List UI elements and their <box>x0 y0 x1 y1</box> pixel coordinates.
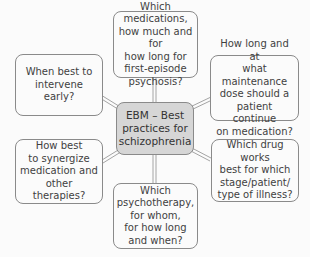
node-line: intervene early? <box>20 79 98 104</box>
node-line: Which <box>117 185 195 198</box>
node-line: When best to <box>20 66 98 79</box>
center-line: EBM – Best <box>119 109 192 122</box>
node-line: other therapies? <box>20 178 98 203</box>
node-line: best for which <box>216 164 294 177</box>
node-line: patient continue <box>215 101 294 126</box>
node-line: for whom, <box>117 210 195 223</box>
node-line: how much and for <box>118 26 193 51</box>
node-lower-left-synergize-therapies: How best to synergize medication and oth… <box>15 139 103 204</box>
node-bottom-psychotherapy: Which psychotherapy, for whom, for how l… <box>113 183 198 249</box>
node-line: psychosis? <box>118 76 193 89</box>
node-upper-left-early-intervention: When best to intervene early? <box>15 54 103 116</box>
node-line: what maintenance <box>215 63 294 88</box>
node-line: psychotherapy, <box>117 197 195 210</box>
node-line: How long and at <box>215 38 294 63</box>
node-lower-right-drug-selection: Which drug works best for which stage/pa… <box>211 139 299 202</box>
node-line: to synergize <box>20 153 98 166</box>
node-upper-right-maintenance-dose: How long and at what maintenance dose sh… <box>210 55 299 121</box>
center-line: practices for <box>119 122 192 135</box>
node-line: How best <box>20 140 98 153</box>
node-line: medication and <box>20 165 98 178</box>
node-line: and when? <box>117 235 195 248</box>
node-line: Which drug works <box>216 139 294 164</box>
node-line: dose should a <box>215 88 294 101</box>
node-line: type of illness? <box>216 189 294 202</box>
node-center-ebm-schizophrenia: EBM – Best practices for schizophrenia <box>116 102 194 155</box>
node-line: Which medications, <box>118 1 193 26</box>
node-line: stage/patient/ <box>216 177 294 190</box>
node-line: first-episode <box>118 63 193 76</box>
mind-map-canvas: Which medications, how much and for how … <box>0 0 310 257</box>
center-line: schizophrenia <box>119 135 192 148</box>
node-top-first-episode-medications: Which medications, how much and for how … <box>113 11 198 78</box>
node-line: on medication? <box>215 126 294 139</box>
node-line: for how long <box>117 222 195 235</box>
connector-bottom <box>153 154 156 184</box>
node-line: how long for <box>118 51 193 64</box>
